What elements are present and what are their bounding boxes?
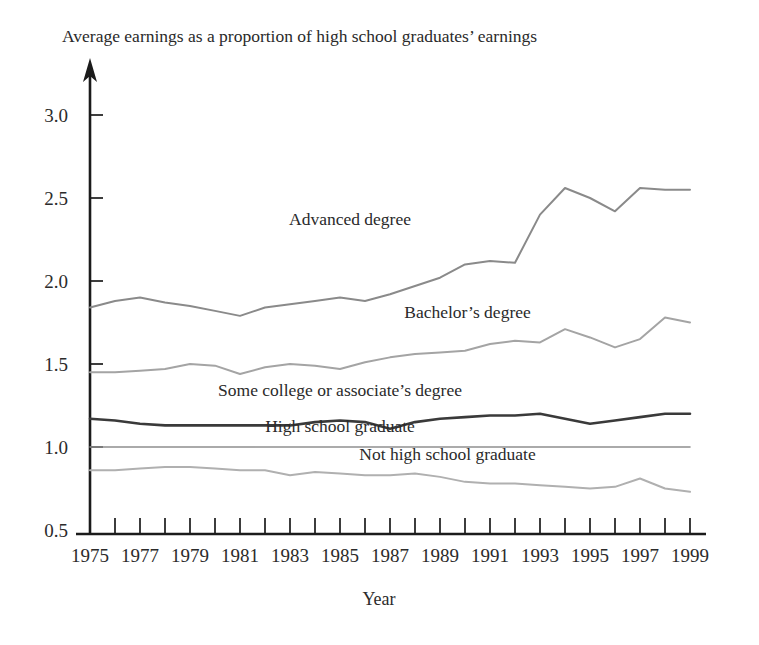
series-line xyxy=(90,467,690,492)
x-tick-label: 1977 xyxy=(121,545,159,566)
y-axis-ticks xyxy=(90,115,103,447)
series-line xyxy=(90,188,690,316)
x-tick-label: 1991 xyxy=(471,545,509,566)
y-tick-label: 1.0 xyxy=(44,437,68,458)
series-line xyxy=(90,318,690,374)
y-axis-tick-labels: 0.51.01.52.02.53.0 xyxy=(44,105,68,541)
x-tick-label: 1975 xyxy=(71,545,109,566)
x-axis-title: Year xyxy=(362,589,395,609)
x-axis-ticks xyxy=(90,518,690,534)
chart-series-labels: Advanced degreeBachelor’s degreeSome col… xyxy=(218,209,536,465)
x-axis-tick-labels: 1975197719791981198319851987198919911993… xyxy=(71,545,709,566)
series-label: Advanced degree xyxy=(289,209,411,229)
x-tick-label: 1985 xyxy=(321,545,359,566)
y-tick-label: 1.5 xyxy=(44,354,68,375)
series-label: Not high school graduate xyxy=(359,444,536,464)
y-tick-label: 2.0 xyxy=(44,271,68,292)
x-tick-label: 1979 xyxy=(171,545,209,566)
y-tick-label: 3.0 xyxy=(44,105,68,126)
series-label: Some college or associate’s degree xyxy=(218,380,462,400)
y-tick-label: 2.5 xyxy=(44,188,68,209)
x-tick-label: 1999 xyxy=(671,545,709,566)
x-tick-label: 1995 xyxy=(571,545,609,566)
series-label: Bachelor’s degree xyxy=(404,302,531,322)
x-tick-label: 1993 xyxy=(521,545,559,566)
earnings-line-chart: Average earnings as a proportion of high… xyxy=(0,0,759,645)
y-tick-label: 0.5 xyxy=(44,520,68,541)
x-tick-label: 1981 xyxy=(221,545,259,566)
x-tick-label: 1989 xyxy=(421,545,459,566)
x-tick-label: 1983 xyxy=(271,545,309,566)
chart-title: Average earnings as a proportion of high… xyxy=(62,26,537,46)
series-label: High school graduate xyxy=(265,416,415,436)
x-tick-label: 1997 xyxy=(621,545,659,566)
x-tick-label: 1987 xyxy=(371,545,409,566)
